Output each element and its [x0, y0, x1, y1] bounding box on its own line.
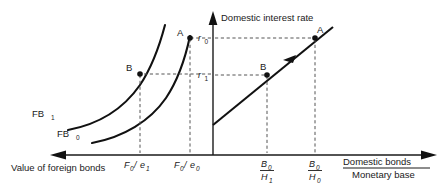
value-of-foreign-bonds-axis: [50, 151, 213, 160]
right-point-b-marker: [264, 72, 270, 78]
tick-f0e0-denominator-subscript: 0: [196, 165, 200, 172]
left-point-b-marker: [137, 71, 143, 77]
tick-b0h1: B 0 H 1: [260, 159, 274, 184]
schedule-direction-arrowhead: [283, 55, 296, 63]
fb0-curve: [92, 36, 190, 143]
diagram-canvas: Domestic interest rate Value of foreign …: [0, 0, 446, 192]
tick-r1-base: r: [198, 70, 202, 80]
right-point-a-marker: [312, 35, 318, 41]
domestic-interest-rate-axis: [209, 11, 218, 155]
left-point-a-marker: [187, 35, 193, 41]
left-panel-guides: [140, 38, 211, 153]
left-axis-label: Value of foreign bonds: [11, 162, 106, 173]
fb1-curve-label: FB 1: [32, 108, 55, 121]
left-axis-arrowhead: [50, 151, 66, 160]
tick-r0-subscript: 0: [205, 38, 209, 45]
economics-diagram: Domestic interest rate Value of foreign …: [0, 0, 446, 192]
tick-f0e1-denominator: e: [140, 160, 145, 170]
right-point-a-label: A: [317, 24, 324, 35]
vertical-axis-label: Domestic interest rate: [221, 12, 313, 23]
right-axis-label-numerator: Domestic bonds: [343, 156, 411, 167]
tick-b0h1-numerator: B: [261, 159, 267, 169]
fb0-label-subscript: 0: [76, 134, 80, 141]
right-point-b-label: B: [260, 61, 266, 72]
tick-r0: r 0: [198, 33, 209, 45]
fb0-label-base: FB: [57, 128, 69, 139]
tick-f0e0-denominator: e: [190, 160, 195, 170]
tick-b0h0-numerator: B: [309, 159, 315, 169]
tick-b0h1-numerator-subscript: 0: [268, 164, 272, 171]
vertical-axis-arrowhead: [209, 11, 218, 25]
right-axis-label-denominator: Monetary base: [352, 169, 415, 180]
fb1-label-base: FB: [32, 108, 44, 119]
tick-r0-base: r: [198, 33, 202, 43]
tick-b0h0-denominator: H: [309, 172, 316, 182]
tick-b0h1-denominator-subscript: 1: [269, 177, 273, 184]
tick-b0h0: B 0 H 0: [308, 159, 322, 184]
fb1-label-subscript: 1: [51, 114, 55, 121]
tick-b0h0-denominator-subscript: 0: [317, 177, 321, 184]
tick-f0e0: F 0 / e 0: [174, 160, 200, 172]
right-axis-label: Domestic bonds Monetary base: [343, 156, 430, 180]
tick-f0e1-slash: /: [133, 160, 138, 170]
fb0-curve-label: FB 0: [57, 128, 80, 141]
tick-r1: r 1: [198, 70, 209, 82]
tick-f0e1-denominator-subscript: 1: [146, 165, 150, 172]
right-axis-arrowhead: [421, 151, 437, 160]
tick-f0e0-slash: /: [183, 160, 188, 170]
tick-r1-subscript: 1: [205, 75, 209, 82]
tick-f0e1: F 0 / e 1: [124, 160, 150, 172]
tick-b0h0-numerator-subscript: 0: [316, 164, 320, 171]
left-point-a-label: A: [177, 27, 184, 38]
tick-b0h1-denominator: H: [261, 172, 268, 182]
left-point-b-label: B: [126, 62, 132, 73]
